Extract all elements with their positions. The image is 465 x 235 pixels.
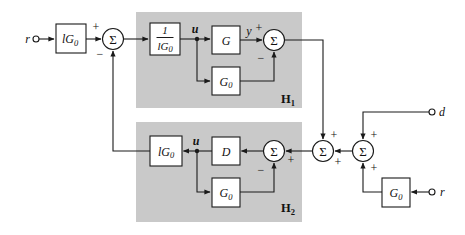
label-u-h2: u [193,134,200,148]
sign-minus-sum1: − [97,47,104,61]
label-u-h1: u [192,22,199,36]
sigma-symbol: Σ [270,33,278,48]
sigma-symbol: Σ [270,144,278,159]
node-u-h2 [195,149,199,153]
sign-plus-sum3: + [288,153,295,167]
node-u-h1 [195,37,199,41]
diagram-canvas: Σ Σ Σ Σ Σ lG0 1 lG0 G G0 lG0 D G0 G0 r d… [0,0,465,235]
label-g: G [222,34,231,48]
label-r-input: r [25,32,30,46]
terminal-r-input [33,36,39,42]
sigma-symbol: Σ [109,32,117,47]
terminal-r-input-2 [429,189,435,195]
sign-plus-sum1: + [93,20,100,34]
sign-plus-sum5-top: + [371,128,378,142]
label-d-controller: D [221,145,231,159]
block-diagram-figure: Σ Σ Σ Σ Σ lG0 1 lG0 G G0 lG0 D G0 G0 r d… [0,0,465,235]
label-inv-numerator: 1 [162,24,168,36]
sign-plus-sum5-bottom: + [371,161,378,175]
sigma-symbol: Σ [319,144,327,159]
label-d-input: d [439,105,446,119]
label-y-h1: y [245,24,252,38]
label-r-input-2: r [440,185,445,199]
sign-plus-sum2: + [256,21,263,35]
sign-minus-sum2: − [258,51,265,65]
terminal-d-input [429,109,435,115]
sign-plus-sum4-bottom: + [335,155,342,169]
sign-minus-sum3: − [258,163,265,177]
sigma-symbol: Σ [359,144,367,159]
sign-plus-sum4-top: + [331,128,338,142]
